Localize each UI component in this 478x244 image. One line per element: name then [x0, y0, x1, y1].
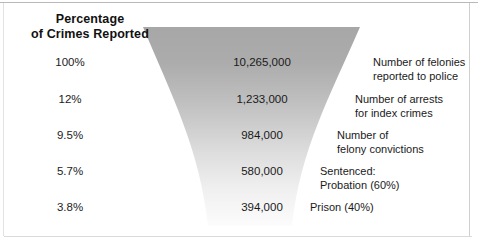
funnel-chart-figure: Percentage of Crimes Reported 100% 10,26… [0, 0, 478, 244]
stage-percent-5: 3.8% [22, 201, 118, 213]
stage-number-2: 1,233,000 [207, 93, 317, 105]
stage-description-4: Sentenced: Probation (60%) [320, 165, 400, 192]
stage-description-2: Number of arrests for index crimes [355, 93, 443, 120]
stage-percent-2: 12% [22, 93, 118, 105]
stage-number-4: 580,000 [207, 165, 317, 177]
stage-description-5: Prison (40%) [310, 201, 374, 215]
chart-title-line-2: of Crimes Reported [14, 27, 166, 42]
stage-number-3: 984,000 [207, 129, 317, 141]
stage-percent-3: 9.5% [22, 129, 118, 141]
stage-number-1: 10,265,000 [207, 56, 317, 68]
stage-percent-1: 100% [22, 56, 118, 68]
stage-percent-4: 5.7% [22, 165, 118, 177]
chart-title-line-1: Percentage [14, 12, 166, 27]
stage-description-3: Number of felony convictions [337, 129, 424, 156]
stage-number-5: 394,000 [207, 201, 317, 213]
stage-description-1: Number of felonies reported to police [373, 56, 465, 83]
chart-title: Percentage of Crimes Reported [14, 12, 166, 42]
